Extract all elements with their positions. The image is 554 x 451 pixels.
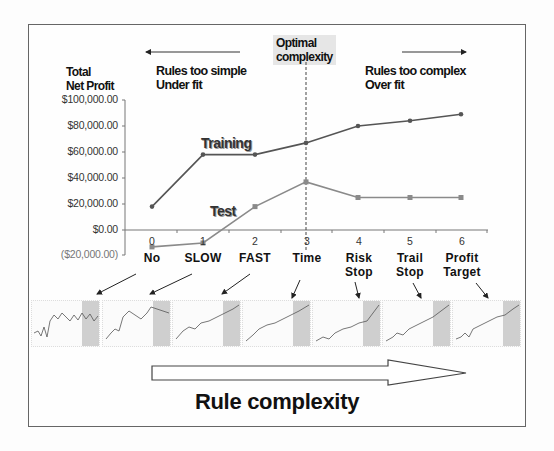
rule-complexity-arrow-icon [152,360,466,385]
x-tick: 5 [395,235,425,247]
x-tick: 0 [137,235,167,247]
test-series-label: Test [210,203,236,219]
equity-thumbnail [172,300,241,347]
rule-complexity-title: Rule complexity [0,389,554,415]
equity-thumbnail [312,300,381,347]
equity-thumbnail [102,300,171,347]
equity-thumbnail [452,300,521,347]
equity-thumbnail [382,300,451,347]
equity-thumbnail [31,300,100,347]
x-tick: 6 [447,235,477,247]
x-tick: 3 [292,235,322,247]
x-category: ProfitTarget [427,251,497,279]
x-tick: 2 [240,235,270,247]
equity-thumbnail [242,300,311,347]
x-tick: 1 [188,235,218,247]
x-tick: 4 [344,235,374,247]
line-chart [0,0,554,451]
training-series-label: Training [201,135,251,151]
